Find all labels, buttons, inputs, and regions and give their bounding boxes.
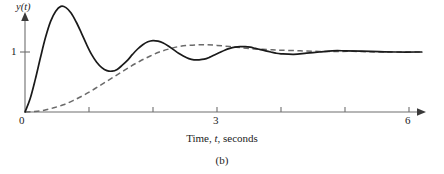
figure-caption: (b) — [0, 155, 444, 166]
y-axis-title: y(t) — [16, 2, 31, 13]
x-tick-label-3: 3 — [213, 115, 219, 126]
y-axis-arrow-icon — [21, 12, 29, 21]
underdamped-response-curve — [25, 6, 422, 112]
figure-step-response-plot: y(t) 0 1 3 6 Time, t, seconds (b) — [0, 0, 444, 174]
y-tick-label-1: 1 — [11, 46, 17, 57]
overdamped-response-curve — [25, 45, 422, 112]
x-axis-arrow-icon — [417, 108, 426, 116]
y-tick-label-0: 0 — [19, 115, 25, 126]
x-tick-label-6: 6 — [405, 115, 411, 126]
x-axis-title-suffix: , seconds — [218, 132, 258, 144]
x-axis-title-prefix: Time, — [186, 132, 214, 144]
x-axis-title: Time, t, seconds — [0, 133, 444, 144]
plot-canvas — [0, 0, 444, 174]
